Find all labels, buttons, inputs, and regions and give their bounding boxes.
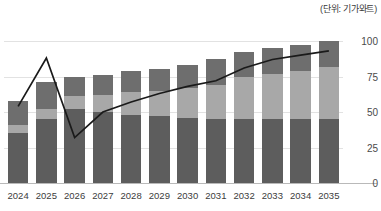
bar-segment-middle — [121, 92, 141, 115]
bar-segment-top — [177, 65, 197, 88]
bar-segment-middle — [93, 95, 113, 112]
bar-segment-top — [149, 69, 169, 90]
x-axis-tick-label: 2033 — [258, 190, 286, 201]
y-axis-tick-label: 25 — [367, 142, 378, 153]
bar-segment-top — [64, 77, 84, 97]
bar-segment-top — [206, 59, 226, 85]
x-axis-tick-label: 2032 — [230, 190, 258, 201]
y-axis-tick-label: 50 — [367, 107, 378, 118]
bar-segment-bottom — [8, 133, 28, 183]
x-axis-tick-label: 2027 — [89, 190, 117, 201]
x-axis-tick-label: 2035 — [315, 190, 343, 201]
x-axis-tick-label: 2031 — [202, 190, 230, 201]
bar-segment-bottom — [177, 118, 197, 183]
x-axis-tick-label: 2025 — [32, 190, 60, 201]
bar-segment-bottom — [290, 119, 310, 183]
bar-stack — [290, 45, 310, 183]
bar-stack — [234, 52, 254, 183]
bar-stack — [319, 41, 339, 183]
bar-segment-middle — [234, 77, 254, 120]
bar-segment-bottom — [319, 119, 339, 183]
bar-segment-middle — [319, 67, 339, 120]
bar-stack — [8, 101, 28, 183]
x-axis-tick-label: 2028 — [117, 190, 145, 201]
bar-segment-top — [290, 45, 310, 71]
bar-segment-bottom — [262, 119, 282, 183]
chart-container: (단위: 기가와트) 0255075100 202420252026202720… — [0, 0, 381, 211]
axis-baseline — [0, 183, 377, 184]
bar-segment-bottom — [36, 119, 56, 183]
bar-segment-middle — [290, 71, 310, 119]
gridline — [4, 41, 343, 42]
x-axis-tick-label: 2030 — [174, 190, 202, 201]
bar-stack — [36, 82, 56, 183]
bar-segment-middle — [206, 85, 226, 119]
bar-segment-top — [234, 52, 254, 76]
unit-label: (단위: 기가와트) — [320, 2, 377, 15]
bar-segment-middle — [36, 109, 56, 119]
bar-segment-middle — [64, 96, 84, 109]
bar-stack — [64, 77, 84, 184]
x-axis-tick-label: 2029 — [145, 190, 173, 201]
bar-stack — [121, 71, 141, 183]
bar-segment-top — [319, 41, 339, 67]
bar-segment-bottom — [93, 112, 113, 183]
x-axis-tick-label: 2034 — [287, 190, 315, 201]
bar-segment-top — [8, 101, 28, 125]
bar-segment-middle — [262, 74, 282, 119]
bar-segment-bottom — [206, 119, 226, 183]
bar-segment-bottom — [121, 115, 141, 183]
bar-stack — [262, 48, 282, 183]
x-axis-tick-label: 2026 — [61, 190, 89, 201]
bar-segment-middle — [8, 125, 28, 134]
bar-segment-bottom — [149, 116, 169, 183]
y-axis-tick-label: 100 — [361, 36, 378, 47]
bar-segment-top — [121, 71, 141, 92]
bar-segment-bottom — [64, 109, 84, 183]
bar-segment-top — [93, 75, 113, 95]
y-axis-tick-label: 75 — [367, 71, 378, 82]
bar-segment-middle — [177, 88, 197, 118]
y-axis-tick-label: 0 — [372, 178, 378, 189]
bar-segment-middle — [149, 91, 169, 117]
bar-stack — [93, 75, 113, 183]
bar-segment-top — [262, 48, 282, 74]
bar-stack — [149, 69, 169, 183]
bar-segment-top — [36, 82, 56, 109]
bar-stack — [206, 59, 226, 183]
bar-stack — [177, 65, 197, 183]
x-axis-tick-label: 2024 — [4, 190, 32, 201]
bar-segment-bottom — [234, 119, 254, 183]
